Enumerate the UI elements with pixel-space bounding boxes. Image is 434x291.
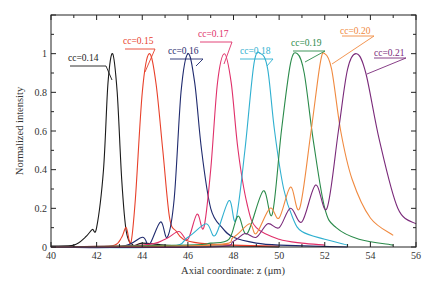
series-line-017 (51, 54, 325, 247)
x-tick-label: 54 (365, 250, 375, 261)
series-annotation: cc=0.16 (168, 46, 199, 56)
annotation-leader-line (125, 49, 155, 72)
x-tick-label: 40 (46, 250, 56, 261)
x-tick-label: 48 (229, 250, 239, 261)
y-tick-label: 0.6 (35, 126, 48, 137)
axis-ticks: 40424446485052545600.20.40.60.81 (35, 15, 422, 261)
annotations: cc=0.14cc=0.15cc=0.16cc=0.17cc=0.18cc=0.… (68, 26, 406, 80)
annotation-leader-line (70, 66, 112, 80)
x-axis-label: Axial coordinate: z (μm) (181, 265, 285, 277)
y-tick-label: 0 (42, 242, 47, 253)
y-tick-label: 0.8 (35, 87, 48, 98)
series-annotation: cc=0.20 (340, 26, 371, 36)
annotation-leader-line (367, 58, 406, 74)
x-tick-label: 56 (411, 250, 421, 261)
series-annotation: cc=0.15 (123, 36, 154, 46)
series-annotation: cc=0.19 (291, 38, 322, 48)
annotation-leader-line (170, 59, 203, 66)
intensity-chart: 40424446485052545600.20.40.60.81 cc=0.14… (0, 0, 434, 291)
series-annotation: cc=0.21 (374, 48, 405, 58)
series-annotation: cc=0.17 (198, 29, 229, 39)
y-tick-label: 0.4 (35, 164, 48, 175)
series-lines (51, 52, 416, 248)
x-tick-label: 42 (92, 250, 102, 261)
x-tick-label: 50 (274, 250, 284, 261)
series-annotation: cc=0.18 (240, 46, 271, 56)
annotation-leader-line (240, 59, 273, 66)
x-tick-label: 44 (137, 250, 147, 261)
y-axis-label: Normalized intensity (14, 86, 25, 175)
x-tick-label: 46 (183, 250, 193, 261)
annotation-leader-line (332, 36, 374, 64)
y-tick-label: 0.2 (35, 203, 48, 214)
x-tick-label: 52 (320, 250, 330, 261)
y-tick-label: 1 (42, 48, 47, 59)
series-annotation: cc=0.14 (68, 53, 99, 63)
